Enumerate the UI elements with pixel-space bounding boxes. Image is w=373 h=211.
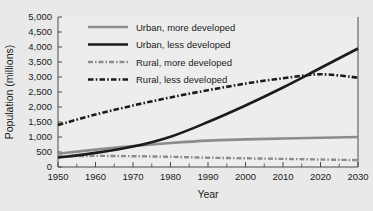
chart-figure: 05001,0001,5002,0002,5003,0003,5004,0004… — [0, 0, 373, 211]
x-tick-label: 1950 — [47, 171, 68, 182]
y-tick-label: 500 — [36, 146, 52, 157]
y-tick-label: 1,000 — [28, 131, 52, 142]
legend-label-1: Urban, more developed — [136, 22, 235, 33]
x-tick-label: 2020 — [310, 171, 331, 182]
x-tick-label: 2000 — [235, 171, 256, 182]
legend-label-3: Rural, more developed — [136, 57, 232, 68]
x-tick-labels: 195019601970198019902000201020202030 — [47, 171, 368, 182]
x-axis-title: Year — [197, 188, 219, 200]
y-tick-label: 2,000 — [28, 101, 52, 112]
x-tick-label: 1990 — [197, 171, 218, 182]
x-tick-label: 1980 — [160, 171, 181, 182]
x-tick-label: 1970 — [122, 171, 143, 182]
y-tick-label: 3,500 — [28, 56, 52, 67]
y-tick-label: 2,500 — [28, 86, 52, 97]
y-tick-label: 4,500 — [28, 26, 52, 37]
y-tick-label: 4,000 — [28, 41, 52, 52]
legend-label-2: Urban, less developed — [136, 39, 231, 50]
legend-label-4: Rural, less developed — [136, 74, 227, 85]
y-tick-label: 1,500 — [28, 116, 52, 127]
x-tick-label: 2030 — [347, 171, 368, 182]
x-tick-label: 1960 — [85, 171, 106, 182]
y-tick-label: 5,000 — [28, 11, 52, 22]
population-line-chart: 05001,0001,5002,0002,5003,0003,5004,0004… — [0, 0, 373, 211]
x-tick-label: 2010 — [272, 171, 293, 182]
y-tick-label: 3,000 — [28, 71, 52, 82]
y-axis-title: Population (millions) — [3, 45, 15, 140]
